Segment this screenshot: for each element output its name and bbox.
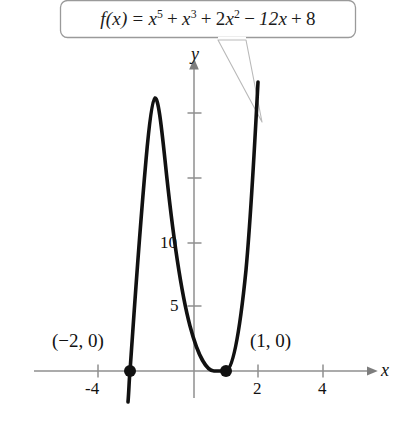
equation-term-3: 2x2 — [216, 8, 240, 30]
x-tick-label--4: -4 — [85, 379, 99, 399]
polynomial-curve — [128, 82, 258, 402]
equation-lhs: f(x) — [100, 8, 127, 30]
equation-op-1: + — [163, 8, 182, 30]
equation-op-4: + — [287, 8, 306, 30]
equation-term-4: 12x — [259, 8, 287, 30]
figure-canvas: f(x) = x5 + x3 + 2x2 − 12x + 8 y x 10 5 … — [0, 0, 400, 422]
equation-label: f(x) = x5 + x3 + 2x2 − 12x + 8 — [60, 0, 356, 37]
x-tick-label-2: 2 — [253, 379, 262, 399]
point-label-1-0: (1, 0) — [250, 330, 291, 352]
y-axis-label: y — [191, 44, 199, 65]
equation-term-1: x5 — [148, 8, 163, 30]
equation-term-2: x3 — [182, 8, 197, 30]
root-point-1 — [220, 365, 232, 377]
root-point-minus2 — [124, 365, 136, 377]
plot-svg — [0, 0, 400, 422]
equation-op-2: + — [197, 8, 216, 30]
x-tick-label-4: 4 — [318, 379, 327, 399]
point-label-minus2-0: (−2, 0) — [52, 330, 104, 352]
equation-op-3: − — [240, 8, 259, 30]
y-tick-label-10: 10 — [160, 233, 177, 253]
x-axis-label: x — [381, 360, 389, 381]
equation-equals: = — [127, 8, 148, 30]
equation-term-5: 8 — [306, 8, 316, 30]
y-tick-label-5: 5 — [170, 296, 179, 316]
